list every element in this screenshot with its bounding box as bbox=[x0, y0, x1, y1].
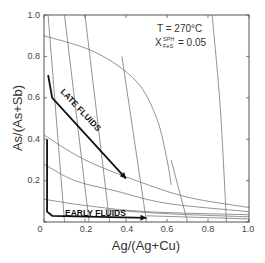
x-tick-label: 1.0 bbox=[242, 224, 255, 234]
y-tick-label: 0.4 bbox=[27, 134, 40, 144]
y-tick-label: 0.6 bbox=[27, 92, 40, 102]
temperature-annotation: T = 270°C bbox=[157, 23, 202, 34]
early-fluids-label: EARLY FLUIDS bbox=[65, 208, 126, 218]
x-tick-label: 0.8 bbox=[202, 224, 215, 234]
chart: 1.0 0.8 0.6 0.4 0.2 0 0.2 0.4 0.6 0.8 1.… bbox=[0, 0, 265, 263]
y-tick-label: 0.2 bbox=[27, 175, 40, 185]
xfes-symbol: X bbox=[155, 37, 162, 48]
y-axis-title: As/(As+Sb) bbox=[10, 85, 25, 151]
xfes-value: = 0.05 bbox=[178, 37, 207, 48]
contour-line bbox=[44, 135, 249, 207]
contour-line bbox=[48, 15, 64, 222]
contour-line bbox=[44, 164, 249, 212]
x-tick-label: 0.4 bbox=[121, 224, 134, 234]
xfes-subscript: FeS bbox=[163, 43, 173, 49]
y-tick-label: 0.8 bbox=[27, 51, 40, 61]
x-tick-label: 0 bbox=[37, 224, 42, 234]
contour-line bbox=[212, 15, 226, 222]
x-tick-label: 0.2 bbox=[80, 224, 93, 234]
y-tick-label: 1.0 bbox=[27, 10, 40, 20]
plot-frame bbox=[44, 15, 249, 222]
axis-ticks bbox=[44, 15, 249, 222]
xfes-superscript: SPH bbox=[163, 36, 174, 42]
contour-line bbox=[122, 56, 147, 222]
contour-lines bbox=[44, 15, 249, 222]
x-axis-title: Ag/(Ag+Cu) bbox=[112, 238, 180, 253]
x-tick-label: 0.6 bbox=[161, 224, 174, 234]
